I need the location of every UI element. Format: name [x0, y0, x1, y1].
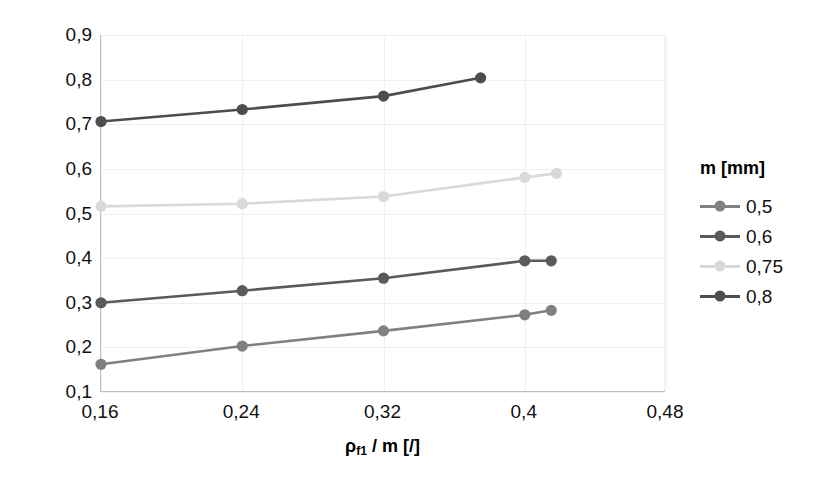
- plot-area: [100, 35, 665, 392]
- data-point: [95, 116, 106, 127]
- y-axis-tick-label: 0,2: [50, 337, 92, 356]
- data-point: [546, 305, 557, 316]
- data-point: [95, 297, 106, 308]
- data-point: [95, 359, 106, 370]
- data-point: [551, 168, 562, 179]
- legend-item-0-8[interactable]: 0,8: [700, 281, 810, 311]
- legend-marker-dot: [715, 231, 726, 242]
- x-axis-tick-label: 0,4: [511, 402, 537, 421]
- x-axis-tick-label: 0,24: [223, 402, 260, 421]
- x-axis-rest: / m [/]: [367, 436, 420, 456]
- legend-items: 0,50,60,750,8: [700, 191, 810, 311]
- x-axis-tick-label: 0,16: [82, 402, 119, 421]
- y-axis-tick-label: 0,4: [50, 248, 92, 267]
- data-point: [237, 340, 248, 351]
- series-line: [101, 310, 551, 364]
- data-point: [378, 273, 389, 284]
- legend-item-label: 0,6: [746, 227, 772, 246]
- series-0-6: [95, 255, 556, 308]
- y-axis-tick-label: 0,6: [50, 159, 92, 178]
- data-point: [95, 201, 106, 212]
- x-axis-title: ρf1 / m [/]: [100, 436, 665, 458]
- y-axis-tick-label: 0,7: [50, 114, 92, 133]
- gridline-horizontal: [101, 392, 665, 393]
- y-axis-tick-label: 0,3: [50, 293, 92, 312]
- legend-key-icon: [700, 199, 740, 213]
- legend-key-icon: [700, 289, 740, 303]
- data-point: [237, 104, 248, 115]
- data-point: [475, 72, 486, 83]
- data-point: [378, 191, 389, 202]
- y-axis-tick-label: 0,9: [50, 25, 92, 44]
- legend-marker-dot: [715, 201, 726, 212]
- legend-key-icon: [700, 229, 740, 243]
- gridline-vertical: [666, 35, 667, 391]
- x-axis-sub: f1: [356, 444, 367, 458]
- legend-marker-dot: [715, 261, 726, 272]
- y-axis-tick-label: 0,8: [50, 70, 92, 89]
- legend-item-0-75[interactable]: 0,75: [700, 251, 810, 281]
- legend-title: m [mm]: [700, 158, 810, 179]
- x-axis-tick-labels: 0,160,240,320,40,48: [0, 402, 813, 428]
- legend-marker-dot: [715, 291, 726, 302]
- x-axis-tick-label: 0,48: [647, 402, 684, 421]
- data-point: [519, 255, 530, 266]
- x-axis-rho: ρ: [345, 436, 356, 456]
- legend-item-0-5[interactable]: 0,5: [700, 191, 810, 221]
- data-point: [237, 285, 248, 296]
- x-axis-tick-label: 0,32: [364, 402, 401, 421]
- data-point: [519, 172, 530, 183]
- series-line: [101, 173, 557, 206]
- series-line: [101, 261, 551, 303]
- legend-item-0-6[interactable]: 0,6: [700, 221, 810, 251]
- legend-key-icon: [700, 259, 740, 273]
- series-line: [101, 78, 481, 122]
- chart-figure: αktGEHdBPGA1 - αktGEHdBPGA2 [/] 0,10,20,…: [0, 0, 813, 490]
- legend-item-label: 0,75: [746, 257, 783, 276]
- series-0-75: [95, 168, 562, 212]
- legend-item-label: 0,8: [746, 287, 772, 306]
- y-axis-tick-label: 0,1: [50, 382, 92, 401]
- data-point: [378, 325, 389, 336]
- legend-item-label: 0,5: [746, 197, 772, 216]
- series-0-8: [95, 72, 486, 127]
- y-axis-tick-label: 0,5: [50, 204, 92, 223]
- series-0-5: [95, 305, 556, 370]
- data-point: [237, 198, 248, 209]
- data-point: [519, 309, 530, 320]
- series-layer: [101, 35, 666, 392]
- data-point: [378, 91, 389, 102]
- legend: m [mm] 0,50,60,750,8: [700, 158, 810, 311]
- data-point: [546, 255, 557, 266]
